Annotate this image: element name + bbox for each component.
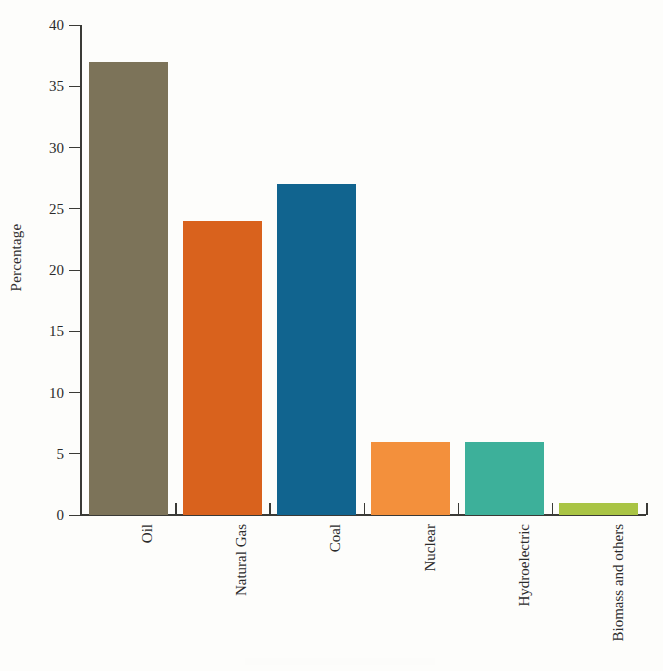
y-axis-tick-label: 0: [57, 507, 70, 523]
y-axis-tick-label: 30: [49, 140, 69, 156]
bar[interactable]: [559, 503, 638, 515]
y-axis-tick-mark: [69, 147, 80, 148]
y-axis-tick-mark: [69, 392, 80, 393]
y-axis-tick-mark: [69, 25, 80, 26]
x-axis-label: Hydroelectric: [514, 524, 534, 606]
x-axis-label: Natural Gas: [231, 524, 251, 596]
bar[interactable]: [371, 442, 450, 516]
y-axis-ticks: 0510152025303540: [0, 0, 80, 671]
y-axis-tick: 20: [49, 262, 80, 278]
y-axis-tick: 40: [49, 17, 80, 33]
x-axis-tick-mark: [458, 503, 460, 515]
x-axis-label-text: Hydroelectric: [514, 524, 534, 606]
x-axis-label: Biomass and others: [608, 524, 628, 642]
y-axis-tick-label: 15: [49, 323, 69, 339]
y-axis-tick: 30: [49, 140, 80, 156]
x-axis-tick-mark: [269, 503, 271, 515]
x-axis-label-text: Nuclear: [420, 524, 440, 571]
y-axis-tick-mark: [69, 515, 80, 516]
y-axis-tick-label: 40: [49, 17, 69, 33]
x-axis-label-text: Coal: [325, 524, 345, 552]
bar-chart: Percentage 0510152025303540 OilNatural G…: [0, 0, 663, 671]
y-axis-tick-mark: [69, 86, 80, 87]
y-axis-tick: 25: [49, 201, 80, 217]
y-axis-tick-label: 10: [49, 385, 69, 401]
x-axis-label-text: Oil: [137, 524, 157, 543]
y-axis-tick: 0: [57, 507, 81, 523]
y-axis-tick-mark: [69, 208, 80, 209]
bar[interactable]: [277, 184, 356, 515]
x-axis-tick-mark: [175, 503, 177, 515]
x-axis-label-text: Natural Gas: [231, 524, 251, 596]
y-axis-tick-label: 35: [49, 78, 69, 94]
y-axis-tick-mark: [69, 331, 80, 332]
x-axis-label: Oil: [137, 524, 157, 543]
y-axis-tick-label: 20: [49, 262, 69, 278]
bar[interactable]: [183, 221, 262, 515]
y-axis-tick-label: 5: [57, 446, 70, 462]
y-axis-tick-label: 25: [49, 201, 69, 217]
x-axis-tick-mark: [364, 503, 366, 515]
y-axis-tick: 15: [49, 323, 80, 339]
y-axis-tick-mark: [69, 270, 80, 271]
x-axis-tick-mark: [646, 503, 648, 515]
bar[interactable]: [89, 62, 168, 515]
x-axis-label-text: Biomass and others: [608, 524, 628, 642]
y-axis-tick: 35: [49, 78, 80, 94]
scan-artifact: [245, 658, 435, 665]
plot-area: [81, 25, 646, 515]
x-axis-tick-mark: [552, 503, 554, 515]
y-axis-tick-mark: [69, 453, 80, 454]
x-axis-label: Nuclear: [420, 524, 440, 571]
y-axis-tick: 10: [49, 385, 80, 401]
x-axis-label: Coal: [325, 524, 345, 552]
y-axis-tick: 5: [57, 446, 81, 462]
bar[interactable]: [465, 442, 544, 516]
